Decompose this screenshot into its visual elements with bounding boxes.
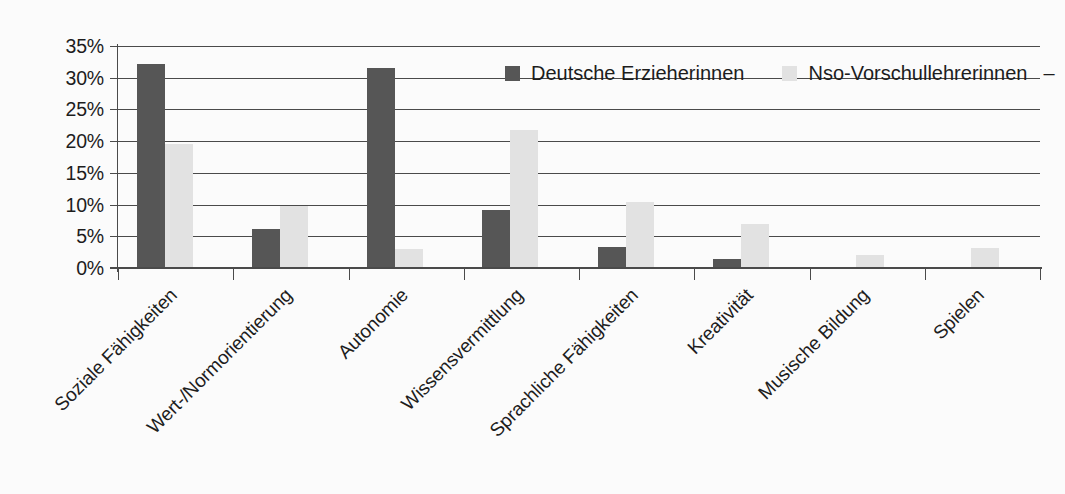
- x-axis-tick-mark: [349, 268, 350, 280]
- x-axis-line: [110, 267, 1042, 269]
- bar-0-3: [482, 210, 510, 268]
- y-axis-tick-label: 0%: [76, 257, 104, 280]
- x-axis-tick-mark: [118, 268, 119, 280]
- bar-0-4: [598, 247, 626, 268]
- gridline: [118, 205, 1040, 206]
- bar-1-1: [280, 206, 308, 268]
- x-axis-label-6: Musische Bildung: [754, 284, 874, 404]
- bar-1-0: [165, 144, 193, 268]
- bar-1-4: [626, 202, 654, 268]
- legend-label-series-1: Nso-Vorschullehrerinnen: [808, 62, 1027, 85]
- bar-0-1: [252, 229, 280, 268]
- legend-entry-series-0: Deutsche Erzieherinnen: [505, 62, 744, 85]
- gridline: [118, 109, 1040, 110]
- y-axis-tick-label: 30%: [66, 66, 104, 89]
- bar-1-3: [510, 130, 538, 268]
- x-axis-tick-mark: [579, 268, 580, 280]
- bar-0-0: [137, 64, 165, 268]
- y-axis-tick-labels: 0%5%10%15%20%25%30%35%: [0, 0, 104, 494]
- y-axis-tick-mark: [110, 268, 118, 269]
- gridline: [118, 46, 1040, 47]
- x-axis-tick-mark: [233, 268, 234, 280]
- x-axis-label-7: Spielen: [929, 284, 989, 344]
- bar-1-7: [971, 248, 999, 268]
- y-axis-tick-label: 35%: [66, 35, 104, 58]
- y-axis-tick-label: 25%: [66, 98, 104, 121]
- y-axis-tick-mark: [110, 236, 118, 237]
- x-axis-tick-mark: [1040, 268, 1041, 280]
- legend-entry-series-1: Nso-Vorschullehrerinnen: [782, 62, 1027, 85]
- y-axis-tick-mark: [110, 141, 118, 142]
- y-axis-tick-mark: [110, 109, 118, 110]
- x-axis-tick-mark: [694, 268, 695, 280]
- y-axis-tick-mark: [110, 173, 118, 174]
- y-axis-tick-label: 10%: [66, 193, 104, 216]
- x-axis-label-3: Wissensvermittlung: [397, 284, 528, 415]
- gridline: [118, 173, 1040, 174]
- y-axis-tick-mark: [110, 205, 118, 206]
- y-axis-tick-mark: [110, 46, 118, 47]
- bar-0-2: [367, 68, 395, 268]
- legend-trailing-dash: –: [1043, 62, 1054, 85]
- legend-swatch-icon-series-0: [505, 66, 520, 81]
- legend-swatch-icon-series-1: [782, 66, 797, 81]
- x-axis-tick-mark: [925, 268, 926, 280]
- x-axis-label-5: Kreativität: [684, 284, 759, 359]
- y-axis-tick-label: 5%: [76, 225, 104, 248]
- chart-legend: Deutsche Erzieherinnen Nso-Vorschullehre…: [505, 62, 1055, 85]
- bar-1-5: [741, 224, 769, 268]
- bar-1-2: [395, 249, 423, 268]
- x-axis-tick-mark: [464, 268, 465, 280]
- gridline: [118, 141, 1040, 142]
- y-axis-tick-label: 20%: [66, 130, 104, 153]
- x-axis-label-2: Autonomie: [333, 284, 412, 363]
- bar-chart-figure: 0%5%10%15%20%25%30%35% Soziale Fähigkeit…: [0, 0, 1065, 494]
- y-axis-tick-label: 15%: [66, 161, 104, 184]
- y-axis-tick-mark: [110, 78, 118, 79]
- legend-label-series-0: Deutsche Erzieherinnen: [531, 62, 744, 85]
- x-axis-tick-mark: [810, 268, 811, 280]
